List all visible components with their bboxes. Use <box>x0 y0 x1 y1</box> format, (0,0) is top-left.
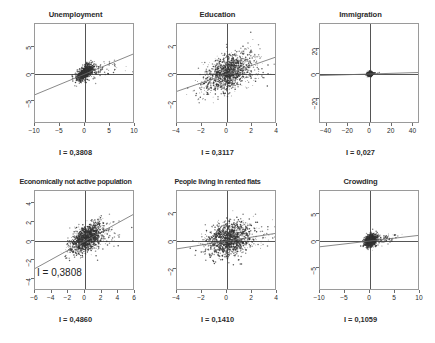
x-tick-label: 4 <box>274 127 278 134</box>
x-tick-label: 0 <box>224 127 228 134</box>
x-tick-label: −5 <box>55 127 63 134</box>
y-tick-label: 4 <box>26 202 33 206</box>
plot-area-crowding <box>319 190 419 290</box>
x-tick-label: −10 <box>28 127 39 134</box>
panel-unemployment: Unemployment−10−50510−505I = 0,3808 <box>3 8 148 179</box>
y-tick-label: −2 <box>26 259 33 267</box>
panel-immigration: Immigration−40−2002040−20020I = 0,027 <box>288 8 433 179</box>
x-tick-label: −4 <box>47 294 55 301</box>
panel-people-living-in-rented-flats: People living in rented flats−4−2024−202… <box>145 175 290 343</box>
moran-scatterplot-figure: Unemployment−10−50510−505I = 0,3808Educa… <box>0 0 435 343</box>
x-axis-crowding: −10−50510 <box>319 290 419 310</box>
y-tick-label: 5 <box>311 213 318 217</box>
panel-title-economically-not-active-population: Economically not active population <box>3 177 148 186</box>
x-tick-label: −4 <box>172 127 180 134</box>
x-tick <box>51 290 52 293</box>
x-tick-label: 0 <box>367 294 371 301</box>
x-tick-label: 0 <box>82 127 86 134</box>
x-tick <box>369 290 370 293</box>
x-tick-label: 4 <box>115 294 119 301</box>
y-tick-label: −4 <box>26 278 33 286</box>
x-tick <box>319 290 320 293</box>
x-tick-label: −40 <box>320 127 331 134</box>
y-axis-education: −202 <box>157 23 176 123</box>
x-tick <box>369 123 370 126</box>
x-axis-people-living-in-rented-flats: −4−2024 <box>176 290 276 310</box>
x-axis-immigration: −40−2002040 <box>319 123 419 143</box>
x-tick-label: 5 <box>392 294 396 301</box>
x-tick <box>251 123 252 126</box>
panel-crowding: Crowding−10−50510−505I = 0,1059 <box>288 175 433 343</box>
x-tick-label: 2 <box>249 127 253 134</box>
panel-title-immigration: Immigration <box>288 10 433 19</box>
x-tick <box>34 290 35 293</box>
x-axis-economically-not-active-population: −6−4−20246 <box>34 290 134 310</box>
x-tick <box>84 123 85 126</box>
plot-area-people-living-in-rented-flats <box>176 190 276 290</box>
x-tick-label: 10 <box>415 294 422 301</box>
y-tick-label: −2 <box>168 268 175 276</box>
x-tick-label: −20 <box>342 127 353 134</box>
x-tick-label: −2 <box>197 127 205 134</box>
x-tick-label: 5 <box>107 127 111 134</box>
x-tick <box>226 290 227 293</box>
y-axis-crowding: −505 <box>300 190 319 290</box>
y-tick-label: 0 <box>311 73 318 77</box>
x-tick-label: −2 <box>197 294 205 301</box>
y-tick-label: 2 <box>168 45 175 49</box>
x-axis-education: −4−2024 <box>176 123 276 143</box>
panel-title-crowding: Crowding <box>288 177 433 186</box>
x-tick-label: −6 <box>30 294 38 301</box>
x-tick <box>394 290 395 293</box>
x-tick <box>109 123 110 126</box>
x-tick <box>34 123 35 126</box>
x-tick-label: 10 <box>130 127 137 134</box>
x-tick-label: 0 <box>367 127 371 134</box>
x-tick <box>276 290 277 293</box>
regression-line-unemployment <box>35 24 133 122</box>
x-tick <box>419 290 420 293</box>
plot-area-immigration <box>319 23 419 123</box>
panel-title-education: Education <box>145 10 290 19</box>
plot-area-unemployment <box>34 23 134 123</box>
x-tick <box>59 123 60 126</box>
y-tick-label: 5 <box>26 46 33 50</box>
x-tick <box>344 290 345 293</box>
y-axis-immigration: −20020 <box>300 23 319 123</box>
x-tick-label: 40 <box>409 127 416 134</box>
x-tick-label: 20 <box>387 127 394 134</box>
y-tick-label: 20 <box>311 48 318 55</box>
x-tick <box>326 123 327 126</box>
panel-caption-economically-not-active-population: I = 0,4860 <box>3 315 148 324</box>
y-tick-label: 0 <box>168 73 175 77</box>
regression-line-crowding <box>320 191 418 289</box>
y-tick-label: 0 <box>26 73 33 77</box>
panel-caption-crowding: I = 0,1059 <box>288 315 433 324</box>
x-tick-label: 2 <box>99 294 103 301</box>
x-tick <box>84 290 85 293</box>
panel-caption-education: I = 0,3117 <box>145 148 290 157</box>
y-tick-label: −2 <box>168 101 175 109</box>
x-tick <box>134 290 135 293</box>
y-tick-label: 0 <box>26 240 33 244</box>
x-tick <box>201 123 202 126</box>
x-tick <box>67 290 68 293</box>
panel-caption-people-living-in-rented-flats: I = 0,1410 <box>145 315 290 324</box>
x-tick <box>176 290 177 293</box>
x-tick <box>251 290 252 293</box>
y-axis-people-living-in-rented-flats: −202 <box>157 190 176 290</box>
x-tick <box>176 123 177 126</box>
regression-line-people-living-in-rented-flats <box>177 191 275 289</box>
panel-title-people-living-in-rented-flats: People living in rented flats <box>145 177 290 186</box>
y-tick-label: −20 <box>311 98 318 109</box>
x-tick <box>134 123 135 126</box>
x-tick-label: 0 <box>82 294 86 301</box>
x-tick-label: 0 <box>224 294 228 301</box>
y-tick-label: 0 <box>168 240 175 244</box>
y-tick-label: −5 <box>26 100 33 108</box>
plot-area-education <box>176 23 276 123</box>
y-axis-unemployment: −505 <box>15 23 34 123</box>
panel-economically-not-active-population: Economically not active population−6−4−2… <box>3 175 148 343</box>
x-tick-label: 4 <box>274 294 278 301</box>
x-tick <box>226 123 227 126</box>
